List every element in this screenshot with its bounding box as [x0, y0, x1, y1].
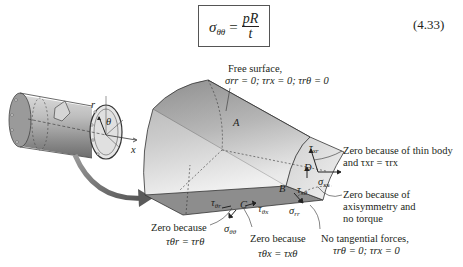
sigma-rr-label: σrr	[289, 205, 300, 216]
zero-thetax-note-line2: τθx = τxθ	[258, 248, 298, 259]
thin-body-note-line2: and τxr = τrx	[343, 157, 398, 168]
tau-thetar-label: τθr	[211, 197, 221, 208]
axisymmetry-note-line3: no torque	[343, 213, 383, 224]
zero-thetax-note-line1: Zero because	[250, 233, 306, 244]
point-b-label: B	[279, 183, 285, 194]
free-surface-condition: σrr = 0; τrx = 0; τrθ = 0	[225, 75, 329, 86]
tau-xr-label: τxr	[309, 142, 319, 153]
sigma-xx-label: σxx	[318, 176, 329, 187]
no-tangential-note-line2: τrθ = 0; τrx = 0	[333, 245, 400, 256]
zero-thetar-note-line2: τθr = τrθ	[166, 236, 204, 247]
point-d-label: D	[304, 162, 312, 173]
tau-thetax-label: τθx	[258, 203, 268, 214]
curved-arrow-icon	[75, 155, 145, 198]
point-c-label: C	[240, 199, 247, 210]
cylinder-drawing	[9, 93, 137, 159]
no-tangential-note-line1: No tangential forces,	[321, 233, 409, 244]
r-label: r	[91, 99, 95, 110]
theta-label: θ	[106, 116, 111, 127]
x-axis-label: x	[131, 144, 136, 155]
axisymmetry-note-line2: axisymmetry and	[343, 201, 416, 212]
point-a-label: A	[233, 117, 239, 128]
sigma-thetatheta-label: σθθ	[224, 223, 236, 234]
thin-body-note-line1: Zero because of thin body	[343, 145, 453, 156]
zero-thetar-note-line1: Zero because	[151, 222, 207, 233]
tau-xtheta-label: τxθ	[297, 184, 307, 195]
free-surface-title: Free surface,	[228, 63, 282, 74]
axisymmetry-note-line1: Zero because of	[343, 189, 410, 200]
